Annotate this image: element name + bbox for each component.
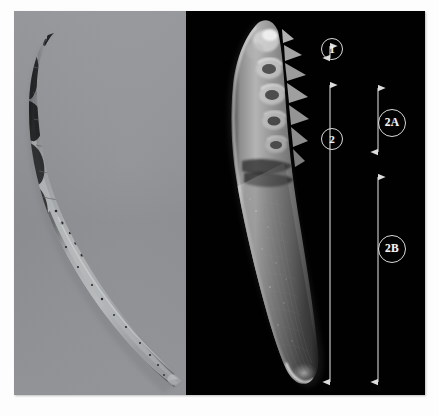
specimen-internal-structures [26, 30, 186, 395]
sem-panel [186, 11, 425, 395]
light-panel-specimen [14, 11, 186, 395]
specimen-speckles [55, 210, 176, 376]
measurement-annotations [186, 11, 425, 395]
figure-panel-frame: 1 2 2A 2B [14, 11, 425, 395]
light-micrograph-panel [14, 11, 186, 395]
figure-root: 1 2 2A 2B [0, 0, 439, 416]
